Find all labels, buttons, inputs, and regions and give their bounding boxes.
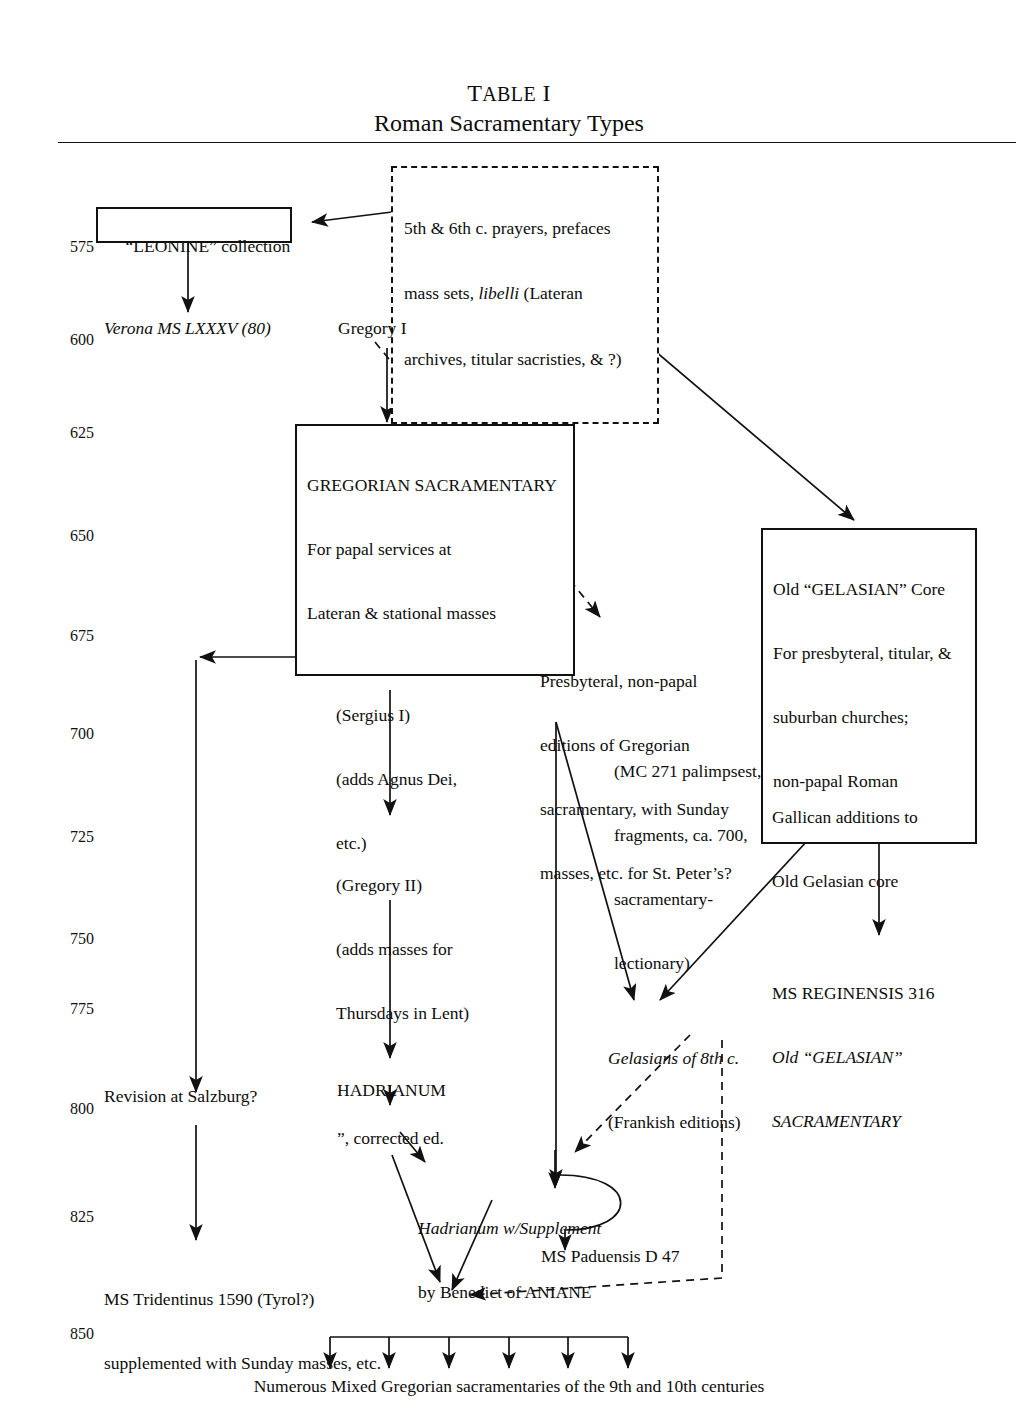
table-diagram: TABLE I Roman Sacramentary Types 575 600… [0, 0, 1018, 1416]
libelli-line2-b: (Lateran [519, 283, 583, 303]
mc271-line-2: fragments, ca. 700, [614, 825, 761, 846]
gregorian-line-3: Lateran & stational masses [307, 603, 563, 624]
gallican-line-1: Gallican additions to [772, 807, 918, 828]
node-gallican-additions: Gallican additions to Old Gelasian core [772, 764, 918, 935]
libelli-line-1: 5th & 6th c. prayers, prefaces [404, 218, 647, 240]
gelasian-line-2: For presbyteral, titular, & [773, 643, 965, 664]
gregorian-line-2: For papal services at [307, 539, 563, 560]
gelasians8-line-2: (Frankish editions) [608, 1112, 741, 1133]
node-ms-paduensis-d47: MS Paduensis D 47 [541, 1246, 680, 1267]
gallican-line-2: Old Gelasian core [772, 871, 918, 892]
node-gregorian-sacramentary: GREGORIAN SACRAMENTARY For papal service… [295, 424, 575, 676]
node-leonine-collection: “LEONINE” collection [96, 207, 292, 243]
sergius-line-2: (adds Agnus Dei, [336, 769, 457, 790]
libelli-line-3: archives, titular sacristies, & ?) [404, 349, 647, 371]
node-gregory-ii: (Gregory II) (adds masses for Thursdays … [336, 832, 469, 1067]
gelasians8-line-1: Gelasians of 8th c. [608, 1048, 741, 1069]
node-hadrianum-corrected-ed: ”, corrected ed. [337, 1128, 444, 1149]
gregorian-line-1: GREGORIAN SACRAMENTARY [307, 475, 563, 496]
gelasian-line-1: Old “GELASIAN” Core [773, 579, 965, 600]
reginensis-line-2: Old “GELASIAN” [772, 1047, 934, 1068]
mc271-line-4: lectionary) [614, 953, 761, 974]
libelli-line2-a: mass sets, [404, 283, 478, 303]
edge-libelli-to-leonine [312, 212, 392, 222]
reginensis-line-3: SACRAMENTARY [772, 1111, 934, 1132]
node-hadrianum: HADRIANUM [337, 1080, 446, 1101]
supplement-line-1: Hadrianum w/Supplement [418, 1218, 601, 1239]
mc271-line-3: sacramentary- [614, 889, 761, 910]
mc271-line-1: (MC 271 palimpsest, [614, 761, 761, 782]
sergius-line-1: (Sergius I) [336, 705, 457, 726]
gregory2-line-2: (adds masses for [336, 939, 469, 960]
node-gelasians-8th-century: Gelasians of 8th c. (Frankish editions) [608, 1005, 741, 1176]
presbyteral-line-1: Presbyteral, non-papal [540, 671, 732, 692]
gelasian-line-3: suburban churches; [773, 707, 965, 728]
supplement-line-2: by Benedict of ANIANE [418, 1282, 601, 1303]
libelli-term: libelli [478, 283, 519, 303]
gregory2-line-3: Thursdays in Lent) [336, 1003, 469, 1024]
node-verona-ms: Verona MS LXXXV (80) [104, 318, 271, 339]
gregory2-line-1: (Gregory II) [336, 875, 469, 896]
node-ms-reginensis-316: MS REGINENSIS 316 Old “GELASIAN” SACRAME… [772, 940, 934, 1175]
node-revision-at-salzburg: Revision at Salzburg? [104, 1086, 257, 1107]
node-gregory-i: Gregory I [338, 318, 407, 339]
tridentinus-line-1: MS Tridentinus 1590 (Tyrol?) [104, 1289, 381, 1310]
node-bottom-caption: Numerous Mixed Gregorian sacramentaries … [0, 1376, 1018, 1397]
reginensis-line-1: MS REGINENSIS 316 [772, 983, 934, 1004]
libelli-line-2: mass sets, libelli (Lateran [404, 283, 647, 305]
node-libelli-sources: 5th & 6th c. prayers, prefaces mass sets… [391, 166, 659, 424]
tridentinus-line-2: supplemented with Sunday masses, etc. [104, 1353, 381, 1374]
leonine-label: “LEONINE” collection [126, 236, 291, 256]
node-mc271-palimpsest: (MC 271 palimpsest, fragments, ca. 700, … [614, 718, 761, 1017]
